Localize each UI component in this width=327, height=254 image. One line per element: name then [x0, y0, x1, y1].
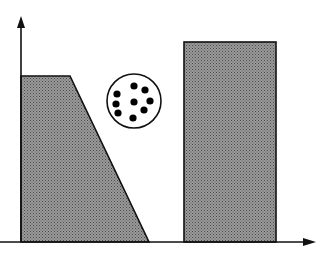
particle-dot: [129, 114, 136, 121]
particle-circle: [107, 74, 161, 128]
x-axis-arrow-icon: [303, 238, 316, 246]
diagram-canvas: [0, 0, 327, 254]
particle-dot: [146, 97, 153, 104]
particle-dot: [141, 86, 148, 93]
particle-dot: [112, 100, 119, 107]
y-axis-arrow-icon: [17, 16, 25, 28]
particle-dot: [114, 109, 121, 116]
particle-dot: [130, 98, 137, 105]
particle-dot: [140, 106, 147, 113]
particle-dot: [130, 82, 137, 89]
rectangle-region: [184, 42, 276, 242]
particle-dot: [113, 90, 120, 97]
